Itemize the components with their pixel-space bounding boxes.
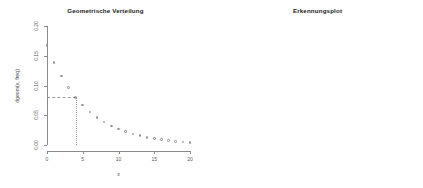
data-point [81,104,84,107]
data-point [60,75,63,78]
data-point [117,128,120,131]
x-tick [119,151,120,154]
y-tick-label: 0.05 [33,110,39,120]
data-point [124,130,127,133]
data-point [89,111,92,114]
x-tick-label: 15 [151,156,157,162]
y-tick-label: 0.20 [33,21,39,31]
data-point [110,125,113,128]
panel-erkennungsplot: Erkennungsplot -6-5-4-3-2-105101520xlog(… [212,0,423,188]
data-point [182,141,185,144]
y-tick [44,115,47,116]
y-axis-title: dgeom(x, freq) [14,69,20,103]
x-tick-label: 5 [81,156,84,162]
y-tick-label: 0.10 [33,81,39,91]
data-point [96,116,99,119]
x-tick [190,151,191,154]
x-tick-label: 20 [187,156,193,162]
x-axis-title: x [117,171,120,177]
data-point [46,44,49,47]
data-point [139,134,142,137]
x-tick [83,151,84,154]
horizontal-guide-line [47,97,76,98]
x-tick-label: 10 [116,156,122,162]
y-tick-label: 0.15 [33,51,39,61]
x-tick-label: 0 [46,156,49,162]
x-tick [154,151,155,154]
y-tick [44,86,47,87]
data-point [132,133,135,136]
plot-area-left: 0.000.050.100.150.2005101520xdgeom(x, fr… [47,26,190,145]
figure-root: Geometrische Verteilung 0.000.050.100.15… [0,0,423,188]
data-point [146,136,149,139]
page-title-right: Erkennungsplot [212,7,423,14]
y-tick [44,56,47,57]
data-point [103,121,106,124]
data-point [174,140,177,143]
data-point [153,137,156,140]
panel-geometrische-verteilung: Geometrische Verteilung 0.000.050.100.15… [0,0,211,188]
data-point [74,96,77,99]
vertical-guide-line [76,97,77,145]
y-tick [44,26,47,27]
data-point [167,139,170,142]
x-tick [47,151,48,154]
data-point [189,141,192,144]
data-point [53,61,56,64]
y-tick-label: 0.00 [33,140,39,150]
data-point [67,86,70,89]
data-point [160,138,163,141]
page-title-left: Geometrische Verteilung [0,7,211,14]
y-tick [44,145,47,146]
